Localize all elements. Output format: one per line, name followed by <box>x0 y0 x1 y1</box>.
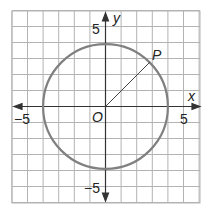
y-axis-label: y <box>112 10 121 26</box>
radius-segment-op <box>106 62 150 106</box>
y-tick-5: 5 <box>92 21 100 37</box>
x-axis-label: x <box>187 88 196 104</box>
x-tick-neg5: −5 <box>14 111 30 127</box>
y-tick-neg5: −5 <box>84 180 100 196</box>
origin-label: O <box>92 109 103 125</box>
point-p-label: P <box>152 47 162 63</box>
x-tick-5: 5 <box>180 111 188 127</box>
coordinate-plane: y x 5 −5 −5 5 O P <box>0 0 214 210</box>
